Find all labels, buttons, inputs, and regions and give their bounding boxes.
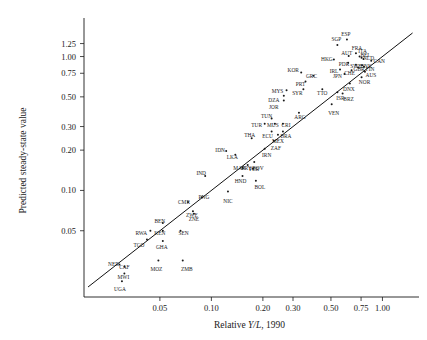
point-label: MAR (233, 165, 246, 171)
point-label: SYR (292, 90, 303, 96)
data-point (300, 71, 302, 73)
y-axis-title: Predicted steady-state value (18, 107, 28, 213)
point-label: PRT (296, 81, 306, 87)
point-label: MUS (267, 122, 279, 128)
point-label: PNG (198, 194, 209, 200)
point-label: BOV (252, 165, 263, 171)
x-tick-label: 0.50 (324, 303, 339, 313)
x-tick-label: 1.00 (375, 303, 390, 313)
point-labels-group: ESPSGPHKGAUTFRAITABELNLDCANPDRIRLSWEGBRD… (108, 31, 385, 293)
point-label: LKA (227, 154, 238, 160)
data-point (349, 82, 351, 84)
point-label: GRC (306, 73, 317, 79)
x-tick-label: 0.10 (204, 303, 219, 313)
point-label: SEN (178, 230, 188, 236)
x-tick-label: 0.05 (152, 303, 167, 313)
point-label: BOL (254, 184, 265, 190)
data-point (253, 161, 255, 163)
point-label: IND (196, 170, 206, 176)
data-point (331, 103, 333, 105)
point-label: DNX (343, 86, 355, 92)
point-label: GHA (156, 244, 168, 250)
point-label: KOR (288, 67, 300, 73)
y-tick-label: 0.75 (61, 68, 76, 78)
data-point (227, 191, 229, 193)
point-label: CAN (374, 58, 385, 64)
y-tick-label: 0.05 (61, 226, 76, 236)
data-point (225, 150, 227, 152)
point-label: ZNE (189, 216, 200, 222)
data-point (255, 180, 257, 182)
data-point (182, 259, 184, 261)
data-point (283, 99, 285, 101)
data-point (149, 230, 151, 232)
point-label: MEX (272, 138, 284, 144)
point-label: BRZ (343, 96, 353, 102)
y-tick-label: 1.25 (61, 39, 76, 49)
point-label: DZA (268, 97, 279, 103)
data-point (241, 175, 243, 177)
data-point (264, 123, 266, 125)
y-tick-label: 0.10 (61, 185, 76, 195)
data-point (283, 95, 285, 97)
data-point (264, 148, 266, 150)
x-axis-title: Relative Y/L, 1990 (214, 320, 285, 330)
figure-scatter-plot: 0.050.100.200.300.500.751.001.250.050.10… (0, 0, 427, 340)
point-label: MWI (118, 274, 130, 280)
data-point (277, 134, 279, 136)
x-tick-label: 0.30 (286, 303, 301, 313)
data-point (157, 259, 159, 261)
data-point (346, 39, 348, 41)
point-label: ESP (341, 31, 350, 37)
point-label: BEN (154, 218, 165, 224)
point-label: HKG (321, 56, 333, 62)
point-label: PDR (339, 61, 350, 67)
point-label: CRI (281, 122, 290, 128)
point-label: MOZ (150, 266, 162, 272)
x-tick-label: 0.75 (354, 303, 369, 313)
point-label: TUR (251, 122, 262, 128)
x-tick-label: 0.20 (255, 303, 270, 313)
point-label: THA (244, 132, 255, 138)
data-point (336, 44, 338, 46)
point-label: TTO (317, 90, 327, 96)
point-label: RWA (136, 230, 148, 236)
point-label: TGO (133, 242, 144, 248)
data-point (121, 280, 123, 282)
point-label: IDN (215, 147, 225, 153)
y-tick-label: 0.30 (61, 122, 76, 132)
point-label: ZAF (271, 145, 281, 151)
data-point (302, 88, 304, 90)
point-label: HND (235, 178, 247, 184)
point-label: MYS (272, 88, 284, 94)
data-point (355, 52, 357, 54)
data-point (146, 239, 148, 241)
point-label: NIC (223, 198, 233, 204)
point-label: CMR (178, 199, 190, 205)
y-tick-label: 0.20 (61, 145, 76, 155)
data-point (286, 89, 288, 91)
data-point (333, 59, 335, 61)
point-label: CHE (344, 70, 355, 76)
plot-canvas: 0.050.100.200.300.500.751.001.250.050.10… (0, 0, 427, 340)
data-point (361, 76, 363, 78)
data-point (336, 91, 338, 93)
point-label: SGP (331, 36, 341, 42)
point-label: TUN (261, 113, 272, 119)
point-label: IRN (262, 152, 271, 158)
point-label: NOR (359, 79, 371, 85)
point-label: NER (108, 261, 119, 267)
point-label: NLD (363, 55, 374, 61)
y-tick-label: 1.00 (61, 52, 76, 62)
ticks-group: 0.050.100.200.300.500.751.001.250.050.10… (61, 39, 390, 313)
data-point (342, 92, 344, 94)
point-label: VEN (328, 110, 339, 116)
point-label: ZMB (181, 266, 193, 272)
point-label: KEN (154, 230, 165, 236)
point-label: JOR (269, 104, 279, 110)
y-tick-label: 0.50 (61, 92, 76, 102)
point-label: AUS (366, 72, 377, 78)
data-point (162, 240, 164, 242)
point-label: UGA (114, 286, 126, 292)
point-label: CAF (119, 264, 130, 270)
